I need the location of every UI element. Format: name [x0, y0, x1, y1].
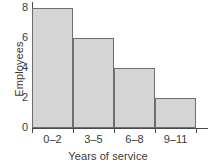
x-axis-title: Years of service: [0, 150, 216, 162]
x-tick-mark: [32, 129, 33, 133]
x-axis-line: [32, 128, 208, 129]
y-tick-mark: [33, 128, 39, 129]
x-tick-label: 9–11: [154, 134, 198, 145]
y-tick-label: 0: [10, 122, 28, 133]
y-tick-label: 4: [10, 62, 28, 73]
x-tick-mark: [73, 129, 74, 133]
y-tick-label: 8: [10, 2, 28, 13]
histogram-bar: [32, 8, 73, 128]
x-tick-mark: [114, 129, 115, 133]
histogram-figure: Employees 02468 0–23–56–89–11 Years of s…: [0, 0, 216, 166]
x-tick-mark: [155, 129, 156, 133]
x-tick-label: 6–8: [113, 134, 157, 145]
x-tick-label: 3–5: [72, 134, 116, 145]
histogram-bar: [73, 38, 114, 128]
plot-area: [32, 8, 196, 128]
histogram-bar: [155, 98, 196, 128]
y-tick-label: 6: [10, 32, 28, 43]
histogram-bar: [114, 68, 155, 128]
y-tick-label: 2: [10, 92, 28, 103]
x-tick-mark: [196, 129, 197, 133]
x-tick-label: 0–2: [31, 134, 75, 145]
